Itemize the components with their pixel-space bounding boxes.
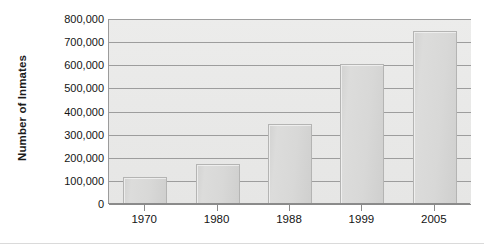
y-axis-tick-label: 100,000 bbox=[40, 175, 104, 187]
y-axis-tick-label: 600,000 bbox=[40, 59, 104, 71]
y-axis-title: Number of Inmates bbox=[0, 0, 44, 215]
y-axis-tick-label: 700,000 bbox=[40, 36, 104, 48]
bars-layer bbox=[109, 19, 471, 204]
x-axis-tick bbox=[289, 204, 290, 211]
x-axis-tick bbox=[434, 204, 435, 211]
bar-1980 bbox=[196, 164, 240, 204]
x-axis-tick-label: 2005 bbox=[421, 213, 447, 225]
bar-chart-figure: Number of Inmates 0100,000200,000300,000… bbox=[0, 0, 484, 249]
bar-1988 bbox=[268, 124, 312, 204]
x-axis-tick bbox=[144, 204, 145, 211]
x-axis-tick-labels: 19701980198819992005 bbox=[108, 213, 470, 233]
y-axis-tick-label: 200,000 bbox=[40, 152, 104, 164]
y-axis-tick-label: 500,000 bbox=[40, 82, 104, 94]
x-axis-tick-label: 1988 bbox=[276, 213, 302, 225]
x-axis-tick-label: 1980 bbox=[204, 213, 230, 225]
x-axis-tick-label: 1999 bbox=[349, 213, 375, 225]
x-axis-tick-label: 1970 bbox=[131, 213, 157, 225]
bar-1970 bbox=[123, 177, 167, 204]
y-axis-tick-labels: 0100,000200,000300,000400,000500,000600,… bbox=[40, 12, 104, 210]
y-axis-title-label: Number of Inmates bbox=[16, 55, 28, 161]
y-axis-tick-label: 0 bbox=[40, 198, 104, 210]
bottom-divider bbox=[0, 243, 484, 244]
x-axis-ticks bbox=[108, 204, 470, 211]
bar-2005 bbox=[413, 31, 457, 204]
x-axis-tick bbox=[361, 204, 362, 211]
x-axis-tick bbox=[217, 204, 218, 211]
y-axis-tick-label: 800,000 bbox=[40, 13, 104, 25]
bar-1999 bbox=[340, 64, 384, 204]
plot-area bbox=[108, 19, 471, 204]
y-axis-tick-label: 300,000 bbox=[40, 129, 104, 141]
y-axis-tick-label: 400,000 bbox=[40, 106, 104, 118]
